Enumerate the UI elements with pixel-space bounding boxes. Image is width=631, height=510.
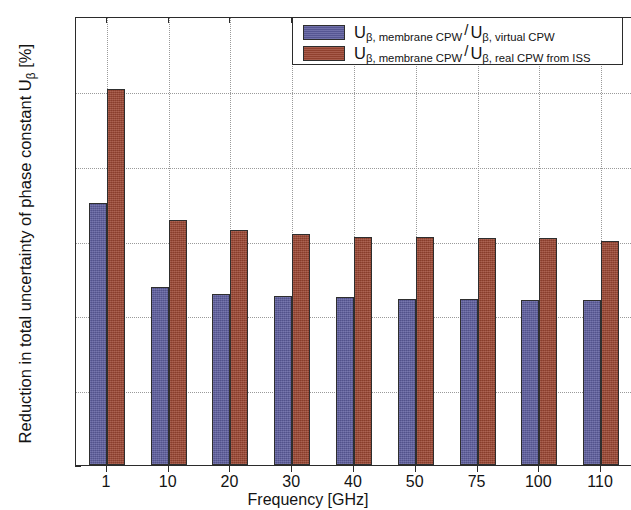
- y-axis-title-unit: [%]: [16, 44, 34, 72]
- bar-40ghz-series2: [354, 237, 372, 465]
- x-tick-label: 10: [138, 474, 198, 490]
- bar-100ghz-series2: [539, 238, 557, 465]
- legend-symbol-u: U: [354, 23, 366, 41]
- legend-subscript-denominator: β, real CPW from ISS: [482, 52, 590, 64]
- x-tick-label: 1: [76, 474, 136, 490]
- plot-area: [75, 17, 631, 466]
- x-axis-title: Frequency [GHz]: [0, 491, 616, 509]
- x-tick-mark: [106, 466, 107, 472]
- legend-label-virtual-cpw: Uβ, membrane CPW/Uβ, virtual CPW: [354, 22, 555, 43]
- bar-30ghz-series1: [274, 296, 292, 465]
- x-axis-title-text: Frequency [GHz]: [248, 491, 369, 508]
- legend-slash: /: [464, 42, 468, 59]
- bar-20ghz-series2: [230, 230, 248, 465]
- bar-10ghz-series1: [151, 287, 169, 465]
- legend-subscript-denominator: β, virtual CPW: [482, 31, 554, 43]
- x-tick-mark: [168, 466, 169, 472]
- bar-20ghz-series1: [212, 294, 230, 465]
- x-tick-mark-top: [106, 17, 107, 23]
- x-tick-label: 100: [508, 474, 568, 490]
- y-tick-mark: [75, 466, 81, 467]
- y-axis-title-main: Reduction in total uncertainty of phase …: [16, 79, 34, 443]
- x-tick-mark: [538, 466, 539, 472]
- legend: Uβ, membrane CPW/Uβ, virtual CPW Uβ, mem…: [292, 17, 623, 65]
- legend-swatch-red: [303, 46, 345, 61]
- x-tick-label: 40: [323, 474, 383, 490]
- legend-symbol-u: U: [354, 44, 366, 62]
- y-axis-title-subscript: β: [24, 72, 38, 79]
- legend-label-real-cpw: Uβ, membrane CPW/Uβ, real CPW from ISS: [354, 43, 590, 64]
- bar-50ghz-series1: [398, 299, 416, 465]
- x-tick-mark: [229, 466, 230, 472]
- legend-slash: /: [464, 21, 468, 38]
- legend-entry-virtual-cpw: Uβ, membrane CPW/Uβ, virtual CPW: [303, 22, 622, 43]
- x-tick-mark: [415, 466, 416, 472]
- legend-swatch-blue: [303, 25, 345, 40]
- legend-subscript-numerator: β, membrane CPW: [366, 31, 462, 43]
- legend-symbol-u2: U: [470, 44, 482, 62]
- bar-75ghz-series1: [460, 299, 478, 465]
- legend-subscript-numerator: β, membrane CPW: [366, 52, 462, 64]
- y-axis-title: Reduction in total uncertainty of phase …: [16, 9, 37, 479]
- bar-30ghz-series2: [292, 234, 310, 465]
- x-tick-mark: [477, 466, 478, 472]
- legend-entry-real-cpw: Uβ, membrane CPW/Uβ, real CPW from ISS: [303, 43, 622, 64]
- bar-40ghz-series1: [336, 297, 354, 465]
- x-tick-mark-top: [168, 17, 169, 23]
- legend-symbol-u2: U: [470, 23, 482, 41]
- bar-75ghz-series2: [478, 238, 496, 465]
- x-tick-label: 20: [199, 474, 259, 490]
- x-tick-mark: [353, 466, 354, 472]
- x-tick-mark: [600, 466, 601, 472]
- x-tick-mark: [291, 466, 292, 472]
- bar-110ghz-series1: [583, 300, 601, 465]
- bar-10ghz-series2: [169, 220, 187, 465]
- x-tick-label: 50: [385, 474, 445, 490]
- bar-50ghz-series2: [416, 237, 434, 465]
- x-tick-label: 110: [570, 474, 630, 490]
- bar-1ghz-series2: [107, 89, 125, 465]
- x-tick-label: 30: [261, 474, 321, 490]
- bar-110ghz-series2: [601, 241, 619, 466]
- bar-1ghz-series1: [89, 203, 107, 465]
- bar-100ghz-series1: [521, 300, 539, 465]
- x-tick-label: 75: [447, 474, 507, 490]
- x-tick-mark-top: [229, 17, 230, 23]
